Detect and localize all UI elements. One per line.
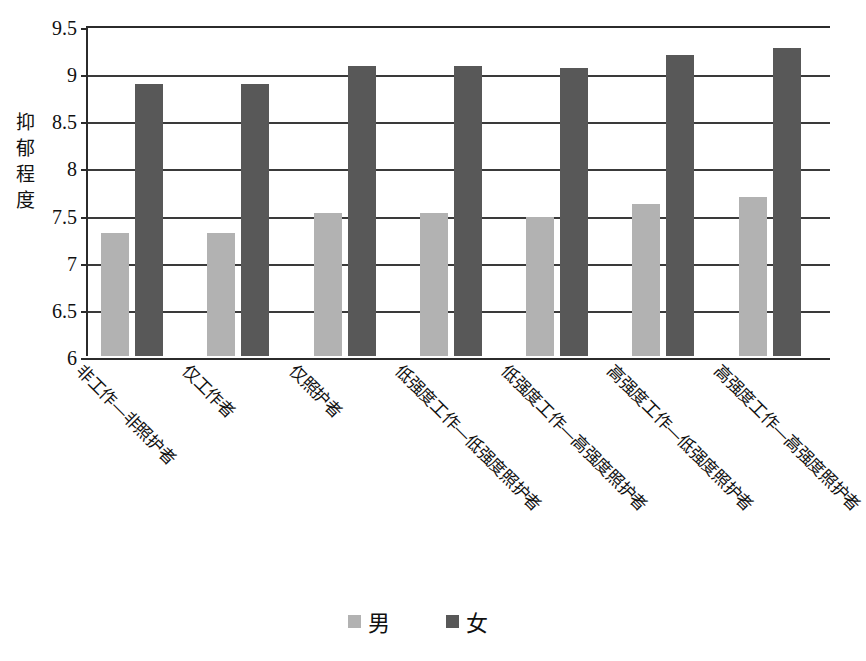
legend-item[interactable]: 女	[446, 605, 488, 637]
y-tick-label: 8.5	[52, 111, 77, 134]
bar-group	[513, 28, 619, 356]
y-tick-label: 7	[67, 252, 77, 275]
y-tick-label: 8	[67, 158, 77, 181]
legend-item[interactable]: 男	[348, 605, 390, 637]
bar-female	[773, 48, 801, 356]
y-tick-label: 9	[67, 64, 77, 87]
x-axis-label: 仅照护者	[284, 358, 348, 422]
bar-female	[241, 84, 269, 356]
y-tick-mark	[81, 75, 88, 77]
y-axis-title-char: 程	[10, 162, 40, 188]
y-tick-mark	[81, 217, 88, 219]
y-tick-mark	[81, 264, 88, 266]
x-axis-labels: 非工作—非照护者仅工作者仅照护者低强度工作—低强度照护者低强度工作—高强度照护者…	[86, 358, 830, 588]
bar-male	[314, 213, 342, 356]
y-axis-title-char: 郁	[10, 136, 40, 162]
bar-group	[301, 28, 407, 356]
bar-group	[407, 28, 513, 356]
bar-male	[739, 197, 767, 356]
y-tick-mark	[81, 169, 88, 171]
y-tick-mark	[81, 311, 88, 313]
y-tick-label: 7.5	[52, 205, 77, 228]
bar-group	[619, 28, 725, 356]
legend-label: 男	[368, 605, 390, 637]
bar-female	[135, 84, 163, 356]
y-axis-title: 抑 郁 程 度	[10, 110, 40, 214]
x-axis-label: 非工作—非照护者	[71, 358, 182, 469]
y-axis-title-char: 抑	[10, 110, 40, 136]
bar-group	[194, 28, 300, 356]
bar-female	[666, 55, 694, 356]
bar-male	[207, 233, 235, 356]
legend-swatch-icon	[446, 615, 459, 628]
y-tick-label: 6	[67, 347, 77, 370]
bar-male	[526, 217, 554, 356]
x-axis-label: 仅工作者	[178, 358, 242, 422]
bar-group	[88, 28, 194, 356]
chart-legend: 男女	[0, 605, 836, 637]
y-tick-mark	[81, 28, 88, 30]
bar-female	[348, 66, 376, 356]
legend-label: 女	[466, 605, 488, 637]
bar-male	[101, 233, 129, 356]
bars-layer	[88, 28, 830, 356]
bar-female	[560, 68, 588, 356]
bar-group	[726, 28, 832, 356]
bar-male	[632, 204, 660, 356]
bar-female	[454, 66, 482, 356]
y-axis-title-char: 度	[10, 188, 40, 214]
y-tick-mark	[81, 122, 88, 124]
plot-area: 9.598.587.576.56	[86, 26, 830, 356]
y-tick-label: 9.5	[52, 17, 77, 40]
bar-male	[420, 213, 448, 356]
y-tick-label: 6.5	[52, 299, 77, 322]
legend-swatch-icon	[348, 615, 361, 628]
